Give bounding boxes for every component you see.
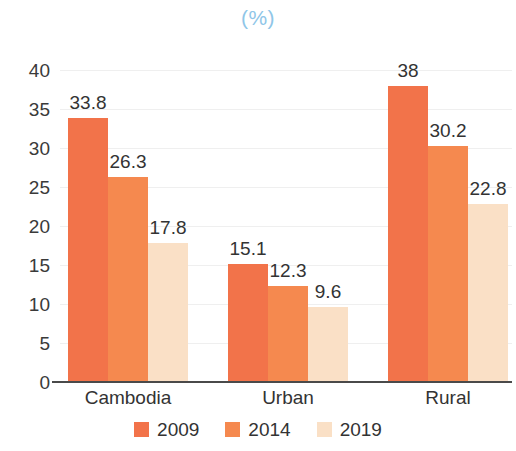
- category-label-rural: Rural: [368, 388, 516, 407]
- y-tick-label: 20: [6, 217, 50, 236]
- legend-label: 2014: [248, 420, 290, 439]
- bar-urban-2019[interactable]: [308, 307, 348, 382]
- legend-swatch-icon: [225, 422, 240, 437]
- category-label-cambodia: Cambodia: [48, 388, 208, 407]
- bar-value-label: 26.3: [98, 152, 158, 171]
- bar-value-label: 15.1: [218, 239, 278, 258]
- bar-urban-2009[interactable]: [228, 264, 268, 382]
- bar-value-label: 12.3: [258, 261, 318, 280]
- bar-rural-2019[interactable]: [468, 204, 508, 382]
- bar-value-label: 30.2: [418, 121, 478, 140]
- category-label-urban: Urban: [208, 388, 368, 407]
- bar-group-urban: 15.112.39.6: [228, 70, 348, 382]
- bar-cambodia-2019[interactable]: [148, 243, 188, 382]
- bar-value-label: 38: [378, 61, 438, 80]
- y-tick-label: 0: [6, 373, 50, 392]
- bar-cambodia-2014[interactable]: [108, 177, 148, 382]
- y-tick-label: 30: [6, 139, 50, 158]
- legend-item-2009[interactable]: 2009: [134, 420, 199, 439]
- chart-title: (%): [0, 6, 516, 30]
- y-tick-label: 15: [6, 256, 50, 275]
- y-tick-label: 10: [6, 295, 50, 314]
- bar-value-label: 17.8: [138, 218, 198, 237]
- legend-label: 2009: [157, 420, 199, 439]
- legend-label: 2019: [340, 420, 382, 439]
- bar-group-rural: 3830.222.8: [388, 70, 508, 382]
- legend-item-2019[interactable]: 2019: [317, 420, 382, 439]
- legend-swatch-icon: [134, 422, 149, 437]
- bar-value-label: 33.8: [58, 93, 118, 112]
- bar-value-label: 9.6: [298, 282, 358, 301]
- y-tick-label: 40: [6, 61, 50, 80]
- chart-legend: 200920142019: [0, 420, 516, 439]
- x-axis-line: [52, 381, 512, 383]
- y-tick-label: 35: [6, 100, 50, 119]
- plot-area: 33.826.317.815.112.39.63830.222.8: [60, 70, 512, 382]
- legend-item-2014[interactable]: 2014: [225, 420, 290, 439]
- y-axis: 4035302520151050: [0, 0, 50, 451]
- legend-swatch-icon: [317, 422, 332, 437]
- bar-group-cambodia: 33.826.317.8: [68, 70, 188, 382]
- bar-chart: (%) 4035302520151050 33.826.317.815.112.…: [0, 0, 516, 451]
- y-tick-label: 25: [6, 178, 50, 197]
- bar-value-label: 22.8: [458, 179, 516, 198]
- y-tick-label: 5: [6, 334, 50, 353]
